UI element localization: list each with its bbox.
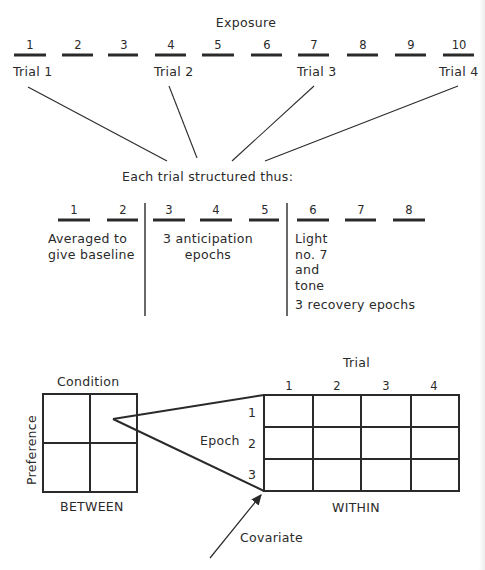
exposure-number: 3 — [108, 39, 140, 51]
stimulus-label: Light no. 7 and tone — [295, 231, 328, 293]
epoch-number: 1 — [58, 204, 90, 216]
trial-label: Trial 4 — [439, 64, 479, 79]
trial-label: Trial 1 — [13, 64, 53, 79]
trial-column-number: 1 — [273, 380, 305, 392]
condition-label: Condition — [57, 374, 119, 389]
epoch-number: 7 — [345, 204, 377, 216]
epoch-number: 2 — [107, 204, 139, 216]
epoch-number: 4 — [200, 204, 232, 216]
epoch-row-number: 1 — [248, 405, 256, 420]
exposure-number: 1 — [14, 39, 46, 51]
exposure-number: 6 — [251, 39, 283, 51]
trial-factor-label: Trial — [343, 355, 370, 370]
anticipation-label: 3 anticipation epochs — [163, 231, 253, 262]
exposure-number: 5 — [202, 39, 234, 51]
epoch-number: 6 — [297, 204, 329, 216]
exposure-number: 9 — [395, 39, 427, 51]
epoch-number: 3 — [153, 204, 185, 216]
epoch-row-number: 2 — [248, 436, 256, 451]
trial-column-number: 3 — [370, 380, 402, 392]
preference-label: Preference — [24, 415, 39, 485]
trial-label: Trial 2 — [154, 64, 194, 79]
exposure-number: 2 — [62, 39, 94, 51]
exposure-number: 8 — [347, 39, 379, 51]
epoch-factor-label: Epoch — [200, 433, 240, 448]
exposure-number: 10 — [443, 39, 475, 51]
epoch-row-number: 3 — [248, 467, 256, 482]
covariate-label: Covariate — [240, 530, 303, 545]
between-label: BETWEEN — [60, 499, 124, 514]
exposure-number: 4 — [155, 39, 187, 51]
trial-column-number: 2 — [321, 380, 353, 392]
trial-column-number: 4 — [418, 380, 450, 392]
within-grid — [264, 395, 459, 491]
between-grid — [43, 394, 137, 492]
structure-caption: Each trial structured thus: — [122, 169, 293, 184]
within-label: WITHIN — [332, 500, 380, 515]
epoch-number: 5 — [249, 204, 281, 216]
diagram-lines — [0, 0, 485, 570]
trial-label: Trial 3 — [297, 64, 337, 79]
covariate-arrow — [210, 495, 261, 558]
epoch-number: 8 — [393, 204, 425, 216]
baseline-label: Averaged to give baseline — [48, 231, 135, 262]
exposure-number: 7 — [298, 39, 330, 51]
trial-connector-lines — [28, 86, 458, 161]
recovery-label: 3 recovery epochs — [295, 297, 415, 312]
exposure-title: Exposure — [216, 15, 276, 30]
